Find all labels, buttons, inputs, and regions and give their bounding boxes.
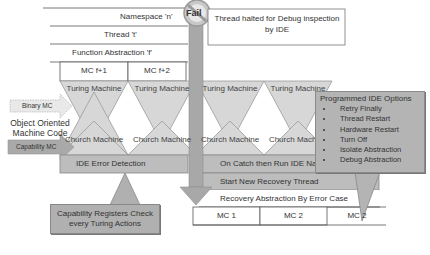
mc-bottom-1-label: MC 1 [193, 211, 260, 220]
fail-badge: Fail [186, 8, 202, 18]
turing-machine-1: Turing Machine [64, 84, 124, 94]
recovery-band-3: Recovery Abstraction By Error Case [220, 194, 348, 203]
binary-mc-label: Binary MC [22, 102, 52, 109]
mc-bottom-3-label: MC 2 [327, 211, 387, 220]
recovery-band-2: Start New Recovery Thread [220, 177, 319, 186]
turing-machine-3: Turing Machine [200, 84, 260, 94]
halt-note: Thread halted for Debug inspection by ID… [212, 13, 342, 35]
ide-option-item: Hardware Restart [334, 125, 420, 135]
mc-bottom-2-label: MC 2 [260, 211, 327, 220]
ide-option-item: Isolate Abstraction [334, 145, 420, 155]
ide-options-title: Programmed IDE Options [320, 94, 420, 103]
mc-top-2-label: MC f+2 [128, 66, 186, 75]
capability-mc-label: Capability MC [16, 143, 56, 150]
capability-registers-callout: Capability Registers Check every Turing … [50, 204, 160, 234]
ide-option-item: Thread Restart [334, 114, 420, 124]
capability-callout-text: Capability Registers Check every Turing … [57, 209, 153, 228]
ide-option-item: Debug Abstraction [334, 155, 420, 165]
church-machine-2: Church Machine [132, 135, 192, 145]
turing-machine-2: Turing Machine [132, 84, 192, 94]
function-layer-label: Function Abstraction 'f' [72, 48, 152, 57]
mc-top-1-label: MC f+1 [60, 66, 128, 75]
ide-error-detection-label: IDE Error Detection [76, 159, 145, 168]
ide-options-box: Programmed IDE Options Retry Finally Thr… [315, 91, 425, 173]
church-machine-3: Church Machine [200, 135, 260, 145]
thread-layer-label: Thread 't' [104, 30, 137, 39]
church-machine-1: Church Machine [64, 135, 124, 145]
ide-options-list: Retry Finally Thread Restart Hardware Re… [320, 104, 420, 166]
ide-option-item: Turn Off [334, 135, 420, 145]
ide-option-item: Retry Finally [334, 104, 420, 114]
oo-machine-code-label: Object Oriented Machine Code [8, 118, 72, 138]
namespace-layer-label: Namespace 'n' [120, 12, 172, 21]
